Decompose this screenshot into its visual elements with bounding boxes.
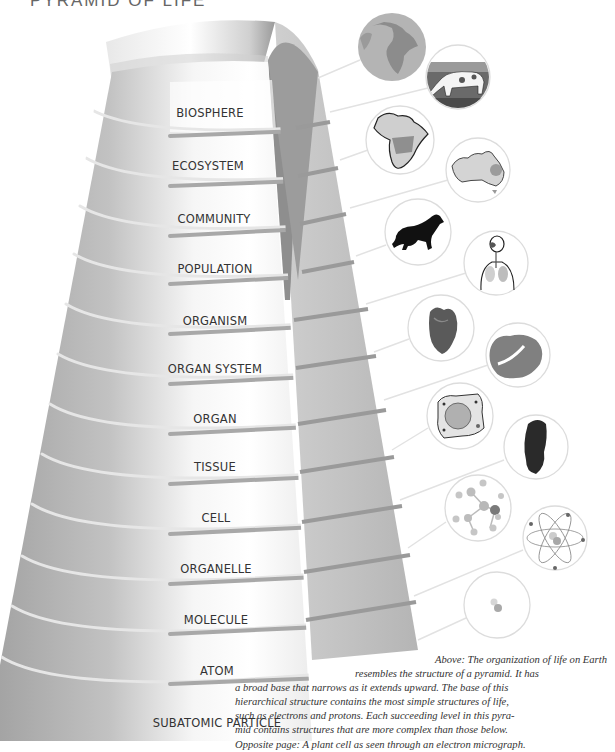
level-label-biosphere: BIOSPHERE xyxy=(176,106,244,120)
level-label-organ: ORGAN xyxy=(193,412,236,426)
mitochondrion-icon xyxy=(504,415,568,479)
cow-grassland-icon xyxy=(420,45,500,110)
figure-caption: Above: The organization of life on Earth… xyxy=(235,653,607,752)
level-label-cell: CELL xyxy=(202,511,231,525)
caption-line: Opposite page: A plant cell as seen thro… xyxy=(235,738,607,752)
globe-icon xyxy=(358,13,426,81)
level-label-organelle: ORGANELLE xyxy=(180,562,252,576)
caption-line: a broad base that narrows as it extends … xyxy=(235,681,607,695)
level-label-community: COMMUNITY xyxy=(177,212,250,226)
caption-line: hierarchical structure contains the most… xyxy=(235,695,607,709)
level-label-molecule: MOLECULE xyxy=(184,613,248,627)
molecule-icon xyxy=(445,475,511,541)
level-label-population: POPULATION xyxy=(177,262,252,276)
level-label-organ-system: ORGAN SYSTEM xyxy=(168,362,262,376)
horse-icon xyxy=(385,199,451,265)
atom-icon xyxy=(523,506,587,570)
caption-line: mid contains structures that are more co… xyxy=(235,723,607,737)
plant-cell-icon xyxy=(427,383,493,449)
heart-icon xyxy=(408,295,474,361)
level-label-atom: ATOM xyxy=(200,664,234,678)
caption-line: Above: The organization of life on Earth xyxy=(235,653,607,667)
caption-line: resembles the structure of a pyramid. It… xyxy=(235,667,607,681)
level-label-tissue: TISSUE xyxy=(194,460,236,474)
caption-line: such as electrons and protons. Each succ… xyxy=(235,709,607,723)
pyramid-front-face xyxy=(0,61,312,741)
africa-map-icon xyxy=(366,106,434,174)
australia-map-icon xyxy=(446,138,510,202)
level-label-ecosystem: ECOSYSTEM xyxy=(172,159,244,173)
level-label-organism: ORGANISM xyxy=(183,314,248,328)
subatomic-particle-icon xyxy=(464,572,530,638)
tissue-icon xyxy=(486,323,550,387)
respiratory-system-icon xyxy=(464,231,528,295)
